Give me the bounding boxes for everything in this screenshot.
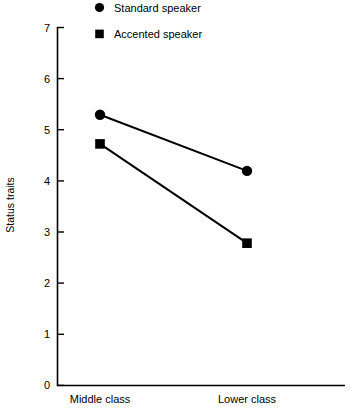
series-line-accented-speaker [100,144,247,243]
legend-label-standard-speaker: Standard speaker [114,2,201,14]
y-tick-label-2: 2 [44,277,50,289]
data-point-standard-middle-class [95,110,105,120]
y-axis-title: Status traits [4,177,16,232]
series-standard-speaker [95,110,252,176]
y-tick-label-6: 6 [44,73,50,85]
y-tick-label-1: 1 [44,328,50,340]
legend-entry-standard-speaker: Standard speaker [95,2,201,14]
legend-entry-accented-speaker: Accented speaker [95,28,202,40]
legend-circle-icon [95,3,104,12]
x-axis-label-middle-class: Middle class [70,393,131,405]
chart-legend: Standard speaker Accented speaker [95,2,202,41]
status-traits-line-chart: Standard speaker Accented speaker Status… [0,0,358,416]
legend-square-icon [95,30,104,39]
y-tick-label-5: 5 [44,124,50,136]
series-line-standard-speaker [100,115,247,171]
y-tick-label-0: 0 [44,379,50,391]
x-axis-labels: Middle class Lower class [70,393,277,405]
data-point-standard-lower-class [242,166,252,176]
y-axis-title-group: Status traits [4,177,16,232]
y-axis-ticks: 7 6 5 4 3 2 1 0 [44,22,64,392]
x-axis-label-lower-class: Lower class [218,393,277,405]
legend-label-accented-speaker: Accented speaker [114,28,202,40]
y-tick-label-4: 4 [44,175,50,187]
data-point-accented-middle-class [95,139,105,149]
series-accented-speaker [95,139,252,248]
y-tick-label-3: 3 [44,226,50,238]
y-tick-label-7: 7 [44,22,50,34]
axis-lines [58,27,346,386]
data-point-accented-lower-class [242,238,252,248]
